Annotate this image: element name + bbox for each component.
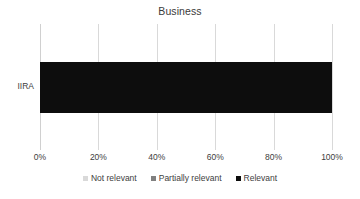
x-tick-label-0pct: 0% <box>34 152 46 162</box>
bar-segment-relevant[interactable] <box>40 62 332 113</box>
legend-item-relevant[interactable]: Relevant <box>236 174 278 183</box>
bar-series-group <box>40 62 332 113</box>
gridline-100pct <box>332 24 333 150</box>
x-tick-label-40pct: 40% <box>148 152 165 162</box>
chart-legend: Not relevantPartially relevantRelevant <box>0 170 360 186</box>
legend-label-not-relevant: Not relevant <box>91 174 137 183</box>
x-axis: 0%20%40%60%80%100% <box>40 150 332 166</box>
plot-area <box>40 24 332 150</box>
legend-label-relevant: Relevant <box>244 174 278 183</box>
x-tick-label-60pct: 60% <box>207 152 224 162</box>
legend-swatch-relevant-icon <box>236 176 241 181</box>
legend-item-partially-relevant[interactable]: Partially relevant <box>151 174 222 183</box>
x-tick-label-100pct: 100% <box>321 152 343 162</box>
legend-swatch-not-relevant-icon <box>83 176 88 181</box>
legend-item-not-relevant[interactable]: Not relevant <box>83 174 137 183</box>
chart-title: Business <box>0 5 360 17</box>
legend-label-partially-relevant: Partially relevant <box>159 174 222 183</box>
category-label-iira: IIRA <box>17 81 34 91</box>
x-tick-label-80pct: 80% <box>265 152 282 162</box>
x-tick-label-20pct: 20% <box>90 152 107 162</box>
legend-swatch-partially-relevant-icon <box>151 176 156 181</box>
chart-container: Business IIRA 0%20%40%60%80%100% Not rel… <box>0 0 360 199</box>
y-axis: IIRA <box>0 24 38 150</box>
